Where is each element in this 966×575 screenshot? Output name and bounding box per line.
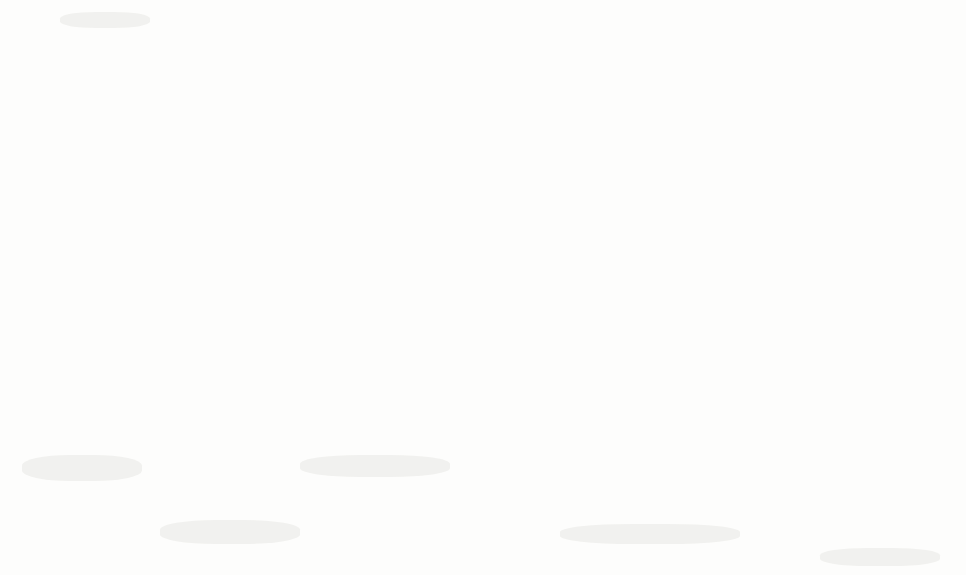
chart-canvas (0, 0, 966, 575)
